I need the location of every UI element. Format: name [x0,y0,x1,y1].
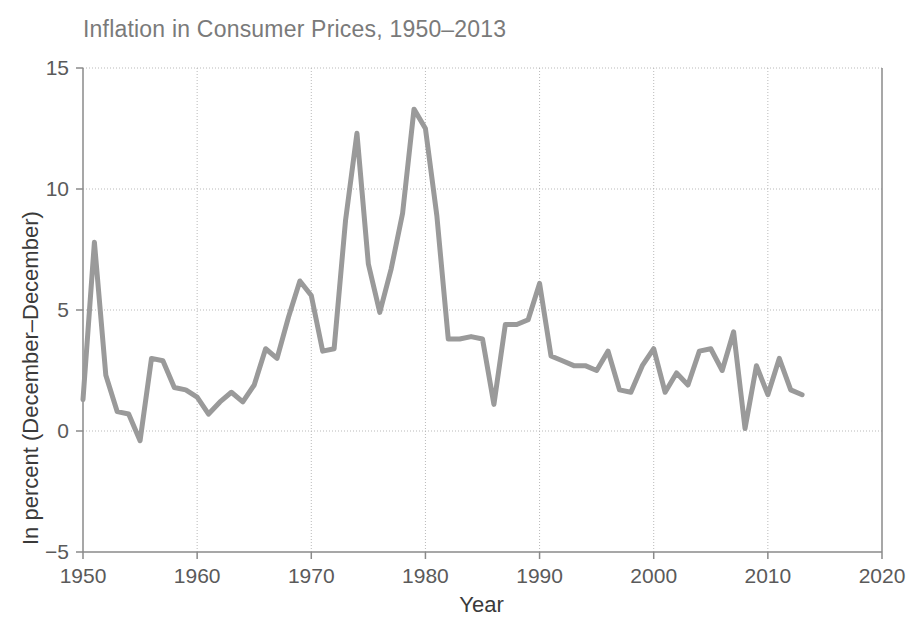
gridlines [83,68,882,552]
svg-text:0: 0 [57,419,69,442]
svg-text:2010: 2010 [744,564,791,587]
data-series-line [83,109,802,441]
svg-text:1960: 1960 [174,564,221,587]
y-tick-labels: 151050−5 [45,56,69,563]
svg-text:1970: 1970 [288,564,335,587]
x-axis-title: Year [419,592,503,617]
x-axis-title-container: Year [0,592,923,618]
svg-text:−5: −5 [45,540,69,563]
svg-text:2000: 2000 [630,564,677,587]
svg-text:1980: 1980 [402,564,449,587]
x-tick-labels: 19501960197019801990200020102020 [60,564,906,587]
svg-text:2020: 2020 [859,564,906,587]
chart-figure: Inflation in Consumer Prices, 1950–2013 … [0,0,923,628]
svg-text:10: 10 [46,177,69,200]
svg-text:1990: 1990 [516,564,563,587]
svg-text:15: 15 [46,56,69,79]
plot-area: 151050−5 1950196019701980199020002010202… [0,0,923,628]
svg-text:1950: 1950 [60,564,107,587]
svg-text:5: 5 [57,298,69,321]
